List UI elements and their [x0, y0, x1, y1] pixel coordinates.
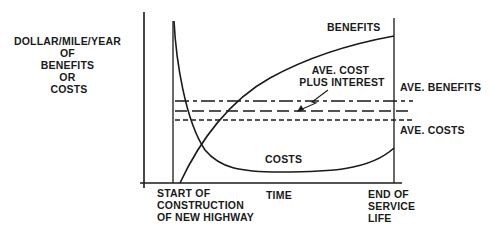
costs-label: COSTS — [265, 153, 302, 165]
arrow-icon — [300, 90, 328, 110]
x-axis-label: TIME — [266, 189, 292, 201]
benefits-label: BENEFITS — [327, 21, 381, 33]
ave-cost-plus-interest-label: AVE. COST PLUS INTEREST — [299, 64, 385, 88]
y-axis-label: DOLLAR/MILE/YEAR OF BENEFITS OR COSTS — [14, 35, 124, 95]
end-service-life-label: END OF SERVICE LIFE — [368, 188, 418, 224]
ave-benefits-label: AVE. BENEFITS — [400, 81, 481, 93]
start-construction-label: START OF CONSTRUCTION OF NEW HIGHWAY — [157, 187, 254, 223]
ave-costs-label: AVE. COSTS — [400, 124, 465, 136]
diagram-canvas: DOLLAR/MILE/YEAR OF BENEFITS OR COSTS BE… — [0, 0, 492, 233]
